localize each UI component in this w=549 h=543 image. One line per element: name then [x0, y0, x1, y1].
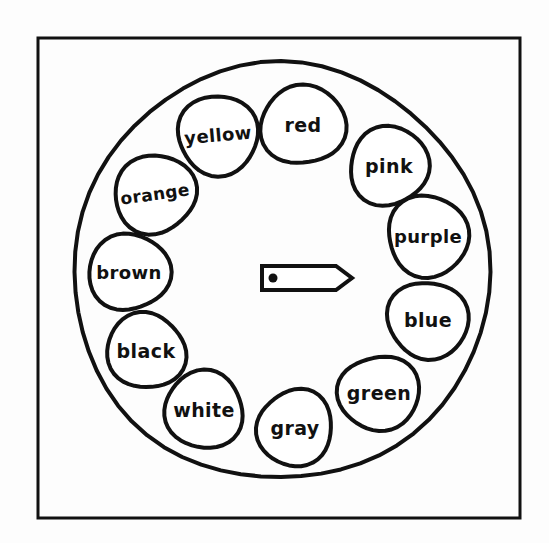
segment-circle-brown[interactable] — [89, 234, 171, 310]
spinner-arrow[interactable] — [262, 266, 352, 290]
spinner-figure: redpinkpurplebluegreengraywhiteblackbrow… — [0, 0, 549, 543]
spinner-segment-brown[interactable]: brown — [89, 234, 171, 310]
spinner-segment-red[interactable]: red — [260, 84, 346, 162]
spinner-canvas: redpinkpurplebluegreengraywhiteblackbrow… — [0, 0, 549, 543]
segment-circle-red[interactable] — [260, 84, 346, 162]
spinner-arrow-pivot-dot — [269, 274, 278, 283]
